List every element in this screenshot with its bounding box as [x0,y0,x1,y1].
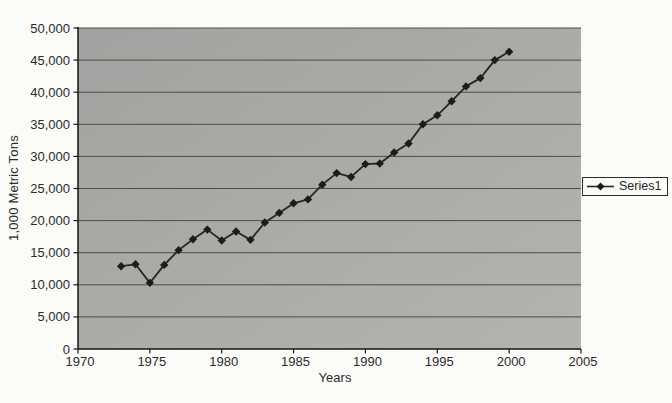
y-tick-label: 20,000 [30,213,70,228]
y-tick-label: 45,000 [30,53,70,68]
legend-label: Series1 [619,180,661,193]
x-tick-label: 1975 [137,354,166,369]
x-tick-label: 1995 [425,354,454,369]
x-axis-title: Years [235,370,435,385]
y-tick-label: 35,000 [30,117,70,132]
y-tick-label: 40,000 [30,85,70,100]
chart-canvas: 05,00010,00015,00020,00025,00030,00035,0… [0,0,672,403]
y-tick-label: 15,000 [30,245,70,260]
x-tick-label: 2005 [569,354,598,369]
x-tick-label: 1990 [353,354,382,369]
series1-marker-icon [587,182,614,191]
y-tick-label: 50,000 [30,21,70,36]
legend: Series1 [582,177,668,196]
y-tick-label: 10,000 [30,277,70,292]
y-tick-label: 25,000 [30,181,70,196]
y-tick-label: 30,000 [30,149,70,164]
x-tick-label: 1970 [66,354,95,369]
x-tick-label: 1985 [281,354,310,369]
x-tick-label: 2000 [497,354,526,369]
plot-area: 05,00010,00015,00020,00025,00030,00035,0… [0,0,672,403]
y-tick-label: 5,000 [37,309,70,324]
x-tick-label: 1980 [209,354,238,369]
y-axis-title: 1,000 Metric Tons [6,123,22,253]
